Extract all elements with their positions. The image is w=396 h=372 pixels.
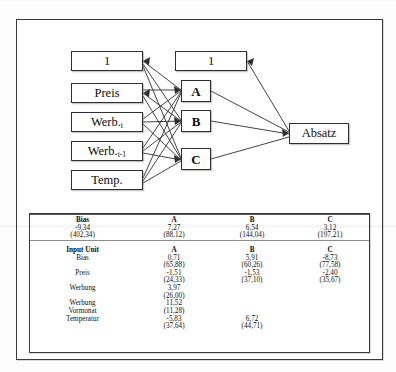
s2-r4-v1 (213, 285, 291, 293)
hidden-node-a-label: A (191, 85, 200, 98)
s2-r5-v1 (213, 293, 291, 301)
input-node-preis-label: Preis (95, 87, 120, 100)
s2-r4-label: Werbung (30, 285, 135, 293)
hidden-node-b[interactable]: B (181, 110, 211, 132)
s2-r9-label (30, 323, 135, 331)
figure-outer-frame: 1 Preis Werb.t Werb.t-1 Temp. 1 A (16, 19, 383, 360)
s2-r4-v2 (291, 285, 369, 293)
s2-r7-v2 (291, 308, 369, 316)
table-row: Preis -1,51 -1,53 -2,40 (30, 270, 369, 278)
input-node-werbung-t-label: Werb.t (91, 116, 123, 129)
weights-table: Bias A B C -9,34 7,27 6,54 3,12 (402,34)… (30, 214, 369, 331)
input-node-werbung-t-1[interactable]: Werb.t-1 (71, 141, 143, 161)
s2-r3-v1: (37,10) (213, 277, 291, 285)
figure-page: 1 Preis Werb.t Werb.t-1 Temp. 1 A (0, 0, 396, 372)
s2-r2-label: Preis (30, 270, 135, 278)
input-node-constant-label: 1 (104, 55, 110, 68)
hidden-node-c[interactable]: C (181, 148, 211, 170)
table-row: Bias 0,71 5,91 -8,73 (30, 255, 369, 263)
hidden-node-c-label: C (191, 153, 200, 166)
s2-r9-v2 (291, 323, 369, 331)
weights-table-container: Bias A B C -9,34 7,27 6,54 3,12 (402,34)… (29, 213, 370, 353)
s2-r8-v2 (291, 316, 369, 324)
hidden-node-b-label: B (192, 115, 201, 128)
neural-network-diagram: 1 Preis Werb.t Werb.t-1 Temp. 1 A (17, 20, 382, 210)
s2-r6-v1 (213, 300, 291, 308)
hidden-bias-node-label: 1 (208, 55, 214, 68)
s1-r1-v1: (88,12) (135, 232, 213, 240)
input-node-werbung-t[interactable]: Werb.t (71, 112, 143, 132)
table-row: (37,64) (44,71) (30, 323, 369, 331)
s2-r6-v2 (291, 300, 369, 308)
input-node-temp-label: Temp. (91, 174, 122, 187)
hidden-bias-node[interactable]: 1 (175, 51, 247, 71)
subscript-t-1: t-1 (118, 150, 127, 159)
subscript-t: t (121, 121, 123, 130)
input-node-temp[interactable]: Temp. (71, 170, 143, 190)
s2-r3-v2: (35,67) (291, 277, 369, 285)
s2-r9-v0: (37,64) (135, 323, 213, 331)
s2-r5-v2 (291, 293, 369, 301)
table-row: (402,34) (88,12) (144,04) (197,21) (30, 232, 369, 240)
s1-r1-v0: (402,34) (30, 232, 135, 240)
s2-r0-label: Bias (30, 255, 135, 263)
output-node-absatz[interactable]: Absatz (289, 123, 349, 144)
s2-r8-label: Temperatur (30, 316, 135, 324)
input-node-constant[interactable]: 1 (71, 51, 143, 71)
table-row: Temperatur -5,83 6,72 (30, 316, 369, 324)
s1-r1-v2: (144,04) (213, 232, 291, 240)
input-node-preis[interactable]: Preis (71, 83, 143, 103)
input-node-werbung-t-1-label: Werb.t-1 (88, 145, 127, 158)
hidden-node-a[interactable]: A (181, 80, 211, 102)
s1-r1-v3: (197,21) (291, 232, 369, 240)
table-row: Werbung 3,97 (30, 285, 369, 293)
output-node-absatz-label: Absatz (302, 127, 337, 140)
s2-r9-v1: (44,71) (213, 323, 291, 331)
